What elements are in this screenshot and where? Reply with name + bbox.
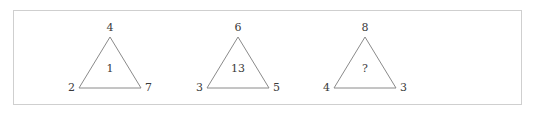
- triangle-2: 6 3 5 13: [173, 10, 303, 105]
- triangle-1: 4 2 7 1: [45, 10, 175, 105]
- triangle-3-center-label: ?: [362, 63, 368, 74]
- triangle-3: 8 4 3 ?: [300, 10, 430, 105]
- triangle-1-center-label: 1: [107, 63, 114, 74]
- triangles-row: 4 2 7 1 6 3 5 13 8 4 3 ?: [13, 10, 522, 105]
- triangle-3-bottom-right-label: 3: [400, 82, 407, 93]
- number-triangle-puzzle-figure: 4 2 7 1 6 3 5 13 8 4 3 ?: [0, 0, 537, 117]
- triangle-1-bottom-left-label: 2: [68, 82, 75, 93]
- triangle-3-apex-label: 8: [362, 22, 369, 33]
- triangle-1-bottom-right-label: 7: [145, 82, 152, 93]
- triangle-2-bottom-left-label: 3: [196, 82, 203, 93]
- triangle-2-bottom-right-label: 5: [273, 82, 280, 93]
- triangle-3-bottom-left-label: 4: [323, 82, 330, 93]
- triangle-2-apex-label: 6: [235, 22, 242, 33]
- triangle-1-apex-label: 4: [107, 22, 114, 33]
- triangle-2-center-label: 13: [231, 63, 245, 74]
